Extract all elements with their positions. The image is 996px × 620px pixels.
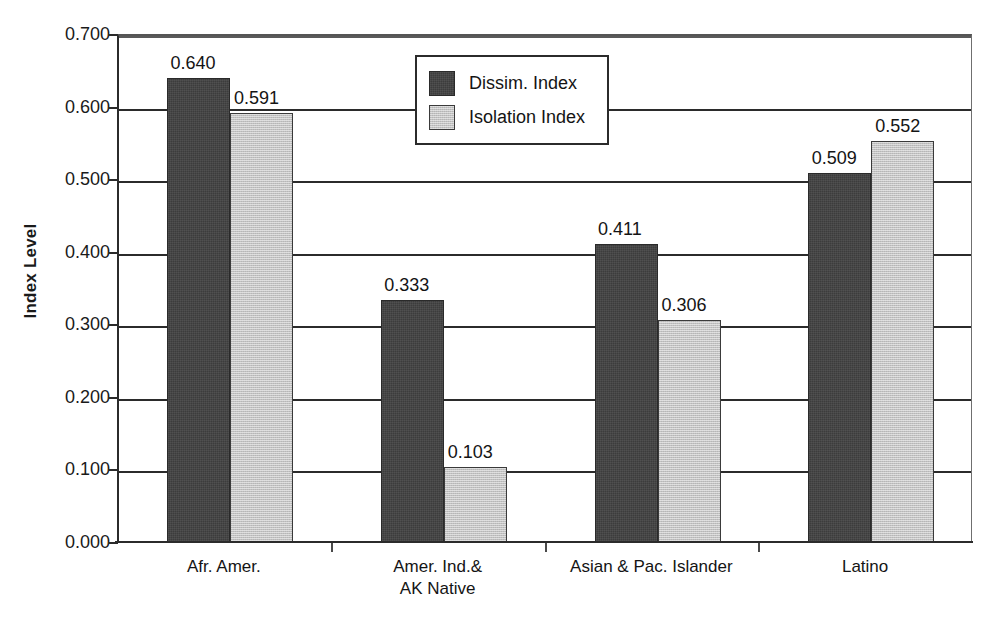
y-axis-tick-label: 0.400	[48, 243, 110, 261]
bar-value-label: 0.640	[171, 54, 216, 72]
legend-label: Isolation Index	[469, 107, 585, 128]
bar-dissim-index	[595, 244, 658, 542]
y-axis-tick-mark	[108, 179, 118, 181]
y-axis-tick-label: 0.600	[48, 98, 110, 116]
bar-isolation-index	[658, 320, 721, 542]
bar-isolation-index	[230, 113, 293, 542]
bar-value-label: 0.411	[598, 220, 642, 238]
y-axis-tick-mark	[108, 397, 118, 399]
y-axis-tick-label: 0.500	[48, 170, 110, 188]
x-axis-line	[115, 541, 973, 543]
x-axis-tick-mark	[758, 543, 760, 552]
y-axis-tick-mark	[108, 324, 118, 326]
bar-dissim-index	[808, 173, 871, 542]
bar-chart: Index Level 0.7000.6000.5000.4000.3000.2…	[0, 0, 996, 620]
bar-value-label: 0.306	[662, 296, 707, 314]
legend-swatch-dissim	[429, 71, 455, 96]
y-axis-tick-mark	[108, 34, 118, 36]
bar-value-label: 0.552	[875, 117, 920, 135]
y-axis-tick-label: 0.100	[48, 460, 110, 478]
x-axis-category-label: Asian & Pac. Islander	[545, 556, 759, 578]
bar-isolation-index	[871, 141, 934, 542]
x-axis-category-label: Latino	[758, 556, 972, 578]
y-axis-title-text: Index Level	[21, 224, 41, 319]
bar-value-label: 0.103	[448, 443, 493, 461]
y-axis-title: Index Level	[16, 0, 46, 542]
bar-isolation-index	[444, 467, 507, 542]
bar-value-label: 0.509	[812, 149, 857, 167]
bar-dissim-index	[381, 300, 444, 542]
x-axis-tick-mark	[331, 543, 333, 552]
legend-item: Isolation Index	[429, 100, 607, 134]
y-axis-tick-label: 0.000	[48, 533, 110, 551]
legend-label: Dissim. Index	[469, 73, 577, 94]
chart-legend: Dissim. IndexIsolation Index	[415, 55, 609, 145]
y-axis-tick-mark	[108, 252, 118, 254]
bar-value-label: 0.591	[234, 89, 279, 107]
y-axis-tick-label: 0.200	[48, 388, 110, 406]
x-axis-tick-mark	[545, 543, 547, 552]
bar-dissim-index	[167, 78, 230, 542]
y-axis-tick-mark	[108, 107, 118, 109]
x-axis-category-label: Afr. Amer.	[117, 556, 331, 578]
bar-value-label: 0.333	[384, 276, 429, 294]
y-axis-tick-label: 0.300	[48, 315, 110, 333]
legend-swatch-isolation	[429, 105, 455, 130]
y-axis-tick-label: 0.700	[48, 25, 110, 43]
y-axis-tick-mark	[108, 469, 118, 471]
legend-item: Dissim. Index	[429, 66, 607, 100]
y-axis-tick-labels: 0.7000.6000.5000.4000.3000.2000.1000.000	[48, 34, 110, 542]
gridline	[119, 36, 971, 38]
x-axis-category-label: Amer. Ind.& AK Native	[331, 556, 545, 600]
